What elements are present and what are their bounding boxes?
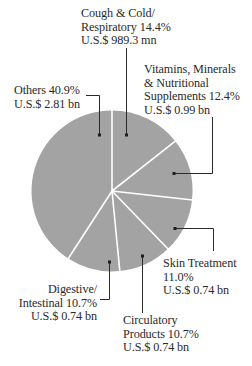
leader-dot-vitamins — [173, 172, 176, 175]
label-skin-treatment: Skin Treatment 11.0% U.S.$ 0.74 bn — [163, 257, 236, 298]
label-others-name: Others 40.9% — [14, 84, 80, 98]
label-skin-value: U.S.$ 0.74 bn — [163, 284, 236, 298]
leader-dot-circulatory — [141, 255, 144, 258]
label-digestive-value: U.S.$ 0.74 bn — [19, 310, 97, 324]
leader-dot-cough — [125, 134, 128, 137]
label-digestive-name-1: Digestive/ — [19, 283, 97, 297]
label-cough-value: U.S.$ 989.3 mn — [81, 34, 171, 48]
label-cough-name-2: Respiratory 14.4% — [81, 21, 171, 35]
label-skin-name: Skin Treatment — [163, 257, 236, 271]
label-vitamins-name-2: & Nutritional — [144, 77, 240, 91]
label-circulatory-value: U.S.$ 0.74 bn — [123, 341, 199, 355]
label-others: Others 40.9% U.S.$ 2.81 bn — [14, 84, 80, 111]
label-vitamins-name-3: Supplements 12.4% — [144, 90, 240, 104]
leader-dot-digestive — [108, 261, 111, 264]
label-digestive-name-2: Intestinal 10.7% — [19, 297, 97, 311]
label-others-value: U.S.$ 2.81 bn — [14, 98, 80, 112]
label-digestive: Digestive/ Intestinal 10.7% U.S.$ 0.74 b… — [19, 283, 97, 324]
leader-dot-skin — [174, 227, 177, 230]
label-skin-percent: 11.0% — [163, 271, 236, 285]
label-cough-cold: Cough & Cold/ Respiratory 14.4% U.S.$ 98… — [81, 7, 171, 48]
label-vitamins-value: U.S.$ 0.99 bn — [144, 104, 240, 118]
label-circulatory-name-1: Circulatory — [123, 314, 199, 328]
label-vitamins-name-1: Vitamins, Minerals — [144, 63, 240, 77]
leader-dot-others — [98, 134, 101, 137]
label-circulatory: Circulatory Products 10.7% U.S.$ 0.74 bn — [123, 314, 199, 355]
label-circulatory-name-2: Products 10.7% — [123, 328, 199, 342]
label-cough-name-1: Cough & Cold/ — [81, 7, 171, 21]
label-vitamins: Vitamins, Minerals & Nutritional Supplem… — [144, 63, 240, 117]
